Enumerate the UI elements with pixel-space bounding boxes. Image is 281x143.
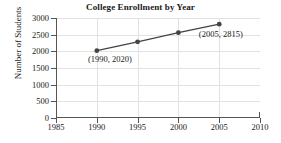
x-axis-tick-label: 1985	[48, 122, 65, 132]
x-axis-tick-label: 2010	[252, 122, 269, 132]
data-point-marker	[94, 48, 99, 53]
data-point-marker	[135, 39, 140, 44]
y-axis-tick-label: 1000	[32, 80, 49, 90]
data-point-annotation: (1990, 2020)	[88, 54, 132, 64]
data-point-marker	[217, 22, 222, 27]
x-axis-tick-label: 2000	[170, 122, 187, 132]
y-axis-tick-label: 1500	[32, 63, 49, 73]
y-axis-title: Number of Students	[13, 0, 23, 93]
data-point-marker	[176, 30, 181, 35]
chart-title: College Enrollment by Year	[0, 2, 281, 12]
y-axis-tick-label: 500	[36, 96, 49, 106]
chart-container: College Enrollment by Year Number of Stu…	[0, 0, 281, 143]
x-axis-tick-label: 2005	[211, 122, 228, 132]
data-point-annotation: (2005, 2815)	[199, 29, 243, 39]
y-axis-tick-label: 3000	[32, 13, 49, 23]
plot-area: 0500100015002000250030001985199019952000…	[56, 18, 260, 118]
x-axis-tick-label: 1995	[129, 122, 146, 132]
x-axis-tick-label: 1990	[88, 122, 105, 132]
y-axis-tick-label: 2500	[32, 30, 49, 40]
y-axis-tick-label: 2000	[32, 46, 49, 56]
